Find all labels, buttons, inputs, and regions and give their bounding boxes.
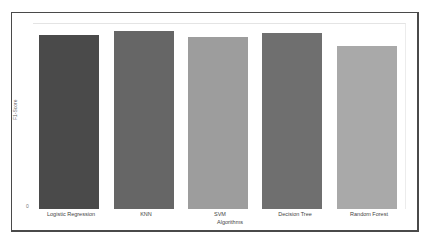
bar-knn xyxy=(114,31,174,209)
x-tick-decision-tree: Decision Tree xyxy=(255,211,335,217)
bar-random-forest xyxy=(337,46,397,209)
x-axis-label: Algorithms xyxy=(190,219,270,225)
bar-decision-tree xyxy=(262,33,322,209)
x-tick-random-forest: Random Forest xyxy=(329,211,409,217)
y-axis-label: F1-Score xyxy=(12,99,18,120)
bar-svm xyxy=(188,37,248,209)
x-tick-knn: KNN xyxy=(106,211,186,217)
x-tick-svm: SVM xyxy=(180,211,260,217)
bar-logistic-regression xyxy=(39,35,99,209)
plot-area xyxy=(33,23,406,209)
x-tick-logistic-regression: Logistic Regression xyxy=(31,211,111,217)
y-tick-0: 0 xyxy=(26,203,29,209)
